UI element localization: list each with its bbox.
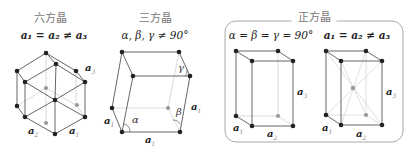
tet-p-label-a1: a1	[233, 122, 243, 135]
tetragonal-title: 正方晶	[292, 8, 337, 24]
tet-i-label-a3: a3	[386, 86, 396, 99]
hexagonal-lattice	[15, 51, 88, 137]
tet-i-label-a2: a2	[356, 128, 366, 141]
hexagonal-relation: a₁ = a₂ ≠ a₃	[21, 29, 87, 41]
tetragonal-axis-relation: a₁ = a₂ ≠ a₃	[324, 29, 390, 41]
trig-label-a1-left: a1	[104, 115, 114, 128]
tet-p-label-a2: a2	[267, 128, 277, 141]
hex-label-a1: a1	[69, 125, 79, 138]
trigonal-relation: α, β, γ ≠ 90°	[122, 29, 189, 41]
hex-label-a3: a3	[85, 62, 95, 75]
tet-p-label-a3: a3	[297, 86, 307, 99]
hexagonal-title: 六方晶	[34, 9, 67, 25]
trig-label-a1-bottom: a1	[145, 134, 155, 147]
tetragonal-angle-relation: α = β = γ = 90°	[229, 29, 313, 41]
trigonal-title: 三方晶	[139, 9, 172, 25]
tet-i-label-a1: a1	[322, 122, 332, 135]
trig-label-gamma: γ	[178, 62, 184, 73]
trig-label-beta: β	[176, 106, 182, 117]
tetragonal-primitive-lattice	[234, 49, 296, 129]
crystal-systems-diagram: 六方晶 a₁ = a₂ ≠ a₃ 三方晶 α, β, γ ≠ 90° 正方晶 α…	[0, 0, 420, 153]
tetragonal-body-centered-lattice	[324, 49, 385, 128]
trig-label-a1-right: a1	[191, 101, 201, 114]
hex-label-a2: a2	[28, 125, 38, 138]
trig-label-alpha: α	[132, 114, 139, 125]
